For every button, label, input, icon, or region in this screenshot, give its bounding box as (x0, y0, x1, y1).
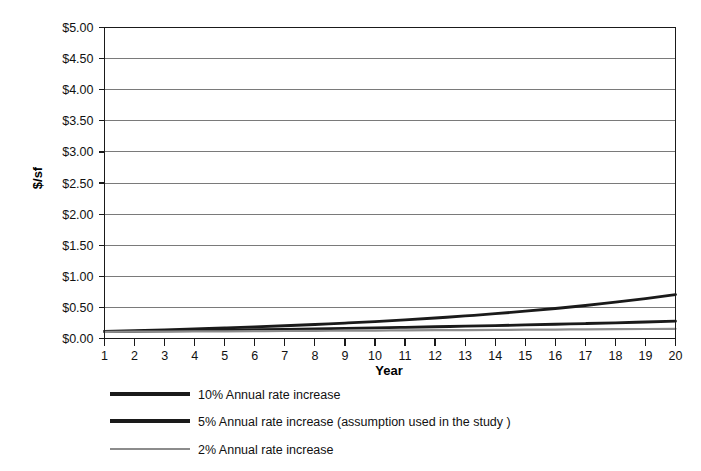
x-tick-label: 5 (221, 349, 228, 363)
y-tick-label: $3.50 (62, 114, 93, 128)
y-tick-label: $4.00 (62, 83, 93, 97)
y-axis-title: $/sf (30, 166, 45, 189)
x-tick-label: 15 (518, 349, 532, 363)
x-tick-label: 16 (548, 349, 562, 363)
x-tick-label: 4 (191, 349, 198, 363)
x-tick-label: 3 (161, 349, 168, 363)
x-tick-label: 7 (281, 349, 288, 363)
x-tick-label: 18 (608, 349, 622, 363)
y-tick-label: $1.50 (62, 239, 93, 253)
x-tick-label: 8 (311, 349, 318, 363)
x-tick-label: 2 (131, 349, 138, 363)
x-tick-label: 11 (399, 349, 412, 363)
legend-label: 10% Annual rate increase (198, 388, 341, 402)
y-tick-label: $1.00 (62, 270, 93, 284)
x-tick-label: 19 (638, 349, 652, 363)
x-tick-label: 6 (251, 349, 258, 363)
x-tick-label: 1 (101, 349, 108, 363)
y-tick-label: $0.00 (62, 332, 93, 346)
x-tick-label: 13 (458, 349, 472, 363)
x-tick-label: 10 (368, 349, 382, 363)
y-tick-label: $2.00 (62, 208, 93, 222)
y-tick-label: $4.50 (62, 52, 93, 66)
x-axis-title: Year (375, 363, 402, 378)
x-tick-label: 12 (428, 349, 442, 363)
y-tick-label: $2.50 (62, 177, 93, 191)
line-chart: $0.00$0.50$1.00$1.50$2.00$2.50$3.00$3.50… (0, 0, 701, 471)
x-tick-label: 9 (341, 349, 348, 363)
y-tick-label: $0.50 (62, 301, 93, 315)
legend-label: 5% Annual rate increase (assumption used… (198, 415, 511, 429)
legend-label: 2% Annual rate increase (198, 443, 334, 457)
y-tick-label: $5.00 (62, 21, 93, 35)
y-tick-label: $3.00 (62, 145, 93, 159)
x-tick-label: 20 (669, 349, 683, 363)
x-tick-label: 17 (578, 349, 592, 363)
x-tick-label: 14 (488, 349, 502, 363)
